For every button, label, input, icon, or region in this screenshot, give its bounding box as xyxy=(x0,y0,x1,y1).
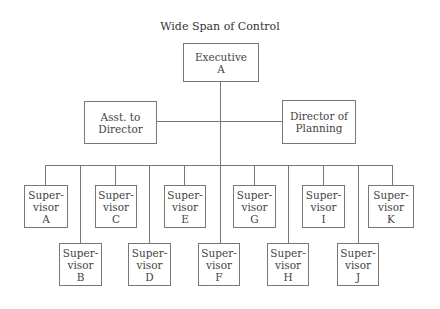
executive-label: Executive xyxy=(195,51,247,63)
executive-box: Executive A xyxy=(183,43,259,82)
sup-line2: visor xyxy=(275,259,301,271)
sup-letter: G xyxy=(250,213,258,225)
sup-line1: Super- xyxy=(306,189,341,201)
drop-e xyxy=(184,165,185,185)
sup-letter: K xyxy=(387,213,395,225)
sup-letter: D xyxy=(145,271,153,283)
sup-line1: Super- xyxy=(98,189,133,201)
sup-line2: visor xyxy=(310,201,336,213)
sup-line1: Super- xyxy=(63,247,98,259)
supervisor-a-box: Super-visorA xyxy=(24,185,68,228)
sup-letter: C xyxy=(112,213,120,225)
sup-letter: H xyxy=(283,271,292,283)
sup-line1: Super- xyxy=(270,247,305,259)
staff-label-line2: Director xyxy=(98,123,142,135)
supervisor-bus-line xyxy=(45,165,392,166)
drop-a xyxy=(45,165,46,185)
sup-line2: visor xyxy=(103,201,129,213)
sup-letter: E xyxy=(181,213,189,225)
drop-c xyxy=(115,165,116,185)
staff-label-line2: Planning xyxy=(295,122,342,134)
supervisor-i-box: Super-visorI xyxy=(302,185,345,228)
supervisor-c-box: Super-visorC xyxy=(95,185,137,228)
executive-letter: A xyxy=(217,63,225,75)
sup-letter: A xyxy=(42,213,50,225)
sup-letter: J xyxy=(356,271,360,283)
sup-line1: Super- xyxy=(28,189,63,201)
sup-line2: visor xyxy=(345,259,371,271)
supervisor-j-box: Super-visorJ xyxy=(337,243,379,286)
sup-letter: B xyxy=(77,271,85,283)
sup-line2: visor xyxy=(378,201,404,213)
supervisor-d-box: Super-visorD xyxy=(128,243,171,286)
sup-line1: Super- xyxy=(373,189,408,201)
supervisor-b-box: Super-visorB xyxy=(59,243,102,286)
supervisor-h-box: Super-visorH xyxy=(267,243,309,286)
staff-label-line1: Director of xyxy=(290,110,348,122)
trunk-line xyxy=(220,81,221,246)
supervisor-e-box: Super-visorE xyxy=(164,185,206,228)
supervisor-k-box: Super-visorK xyxy=(368,185,414,228)
sup-line2: visor xyxy=(172,201,198,213)
sup-line2: visor xyxy=(33,201,59,213)
sup-letter: F xyxy=(215,271,222,283)
sup-line1: Super- xyxy=(132,247,167,259)
drop-g xyxy=(254,165,255,185)
sup-line2: visor xyxy=(241,201,267,213)
drop-b xyxy=(80,165,81,243)
drop-i xyxy=(323,165,324,185)
sup-letter: I xyxy=(321,213,325,225)
staff-line xyxy=(157,121,283,122)
sup-line1: Super- xyxy=(340,247,375,259)
sup-line1: Super- xyxy=(201,247,236,259)
sup-line2: visor xyxy=(67,259,93,271)
supervisor-g-box: Super-visorG xyxy=(233,185,276,228)
drop-k xyxy=(392,165,393,185)
staff-label-line1: Asst. to xyxy=(101,111,141,123)
sup-line2: visor xyxy=(206,259,232,271)
sup-line1: Super- xyxy=(237,189,272,201)
drop-d xyxy=(149,165,150,243)
diagram-title: Wide Span of Control xyxy=(0,20,440,33)
asst-to-director-box: Asst. to Director xyxy=(84,101,157,144)
director-of-planning-box: Director of Planning xyxy=(282,100,356,144)
sup-line1: Super- xyxy=(167,189,202,201)
drop-j xyxy=(358,165,359,243)
sup-line2: visor xyxy=(136,259,162,271)
supervisor-f-box: Super-visorF xyxy=(198,243,240,286)
drop-h xyxy=(288,165,289,243)
